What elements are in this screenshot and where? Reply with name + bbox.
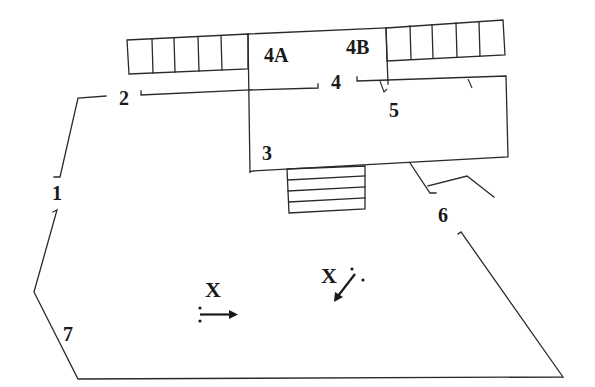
dot-icon <box>198 306 201 309</box>
steps <box>287 166 365 213</box>
marker-left: X <box>198 277 238 323</box>
marker-right: X <box>321 263 365 302</box>
label-2: 2 <box>119 87 129 109</box>
arrowhead-icon <box>334 292 343 302</box>
floor-plan-diagram: 4A 4B 4 2 5 3 1 6 7 X X <box>0 0 595 387</box>
label-3: 3 <box>262 142 272 164</box>
label-7: 7 <box>63 323 73 345</box>
marker-right-x: X <box>321 263 337 288</box>
front-edge-2-4 <box>141 77 388 95</box>
label-6: 6 <box>438 204 448 226</box>
outer-perimeter <box>34 96 563 379</box>
left-seating-block <box>127 34 248 74</box>
marker-left-x: X <box>205 277 221 302</box>
label-4b: 4B <box>346 36 369 58</box>
arrow-down-left-icon <box>338 274 355 296</box>
dot-icon <box>361 278 364 281</box>
arrowhead-icon <box>229 310 238 319</box>
label-5: 5 <box>389 99 399 121</box>
dot-icon <box>198 319 201 322</box>
main-platform-3-5 <box>250 76 508 172</box>
label-1: 1 <box>52 182 62 204</box>
label-4a: 4A <box>264 44 289 66</box>
label-4: 4 <box>331 71 341 93</box>
dot-icon <box>350 267 353 270</box>
side-ramp-6 <box>410 163 494 197</box>
right-seating-block <box>386 20 505 61</box>
